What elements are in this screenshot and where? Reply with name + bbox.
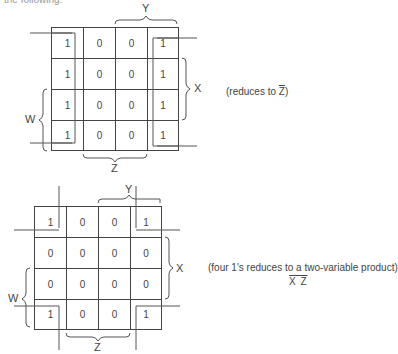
cell: 1 — [131, 207, 161, 238]
karnaugh-map-bottom: 1 0 0 1 0 0 0 0 0 0 0 0 1 0 0 1 — [34, 206, 162, 330]
cell: 0 — [84, 90, 116, 121]
cell: 0 — [116, 59, 148, 90]
cell: 0 — [35, 269, 67, 300]
header-text: the following: — [4, 0, 62, 5]
cell: 0 — [67, 269, 99, 300]
variable-label-x: X — [194, 82, 201, 94]
cell: 0 — [99, 300, 131, 329]
cell: 1 — [148, 28, 178, 59]
reduction-note-top: (reduces to Z) — [226, 86, 288, 97]
cell: 1 — [52, 28, 84, 59]
reduction-note-bottom-line1: (four 1's reduces to a two-variable prod… — [208, 262, 398, 273]
cell: 1 — [131, 300, 161, 329]
cell: 1 — [148, 121, 178, 150]
cell: 1 — [148, 59, 178, 90]
cell: 0 — [99, 207, 131, 238]
variable-label-y: Y — [142, 2, 149, 14]
cell: 0 — [131, 269, 161, 300]
cell: 0 — [84, 59, 116, 90]
cell: 0 — [116, 28, 148, 59]
cell: 0 — [67, 300, 99, 329]
karnaugh-map-top: 1 0 0 1 1 0 0 1 1 0 0 1 1 0 0 1 — [51, 27, 179, 151]
cell: 1 — [52, 59, 84, 90]
cell: 0 — [35, 238, 67, 269]
cell: 0 — [131, 238, 161, 269]
cell: 1 — [35, 300, 67, 329]
note-prefix: (reduces to — [226, 86, 279, 97]
variable-label-z: Z — [111, 162, 118, 174]
reduction-note-bottom-expression: X Z — [289, 276, 308, 287]
cell: 1 — [52, 90, 84, 121]
cell: 1 — [148, 90, 178, 121]
cell: 0 — [67, 238, 99, 269]
variable-label-x: X — [176, 262, 183, 274]
variable-label-w: W — [8, 292, 18, 304]
note-suffix: ) — [285, 86, 288, 97]
cell: 1 — [35, 207, 67, 238]
variable-label-w: W — [25, 113, 35, 125]
cell: 0 — [99, 238, 131, 269]
variable-label-z: Z — [94, 341, 101, 353]
cell: 0 — [116, 90, 148, 121]
cell: 1 — [52, 121, 84, 150]
variable-label-y: Y — [125, 183, 132, 195]
cell: 0 — [99, 269, 131, 300]
cell: 0 — [67, 207, 99, 238]
cell: 0 — [116, 121, 148, 150]
cell: 0 — [84, 28, 116, 59]
cell: 0 — [84, 121, 116, 150]
